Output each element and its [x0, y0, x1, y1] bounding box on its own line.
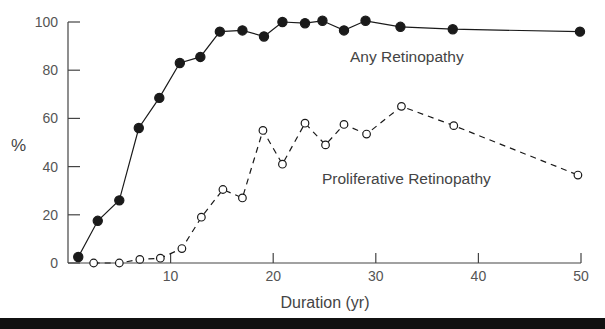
open-circle-marker — [136, 256, 144, 264]
x-tick-label: 50 — [573, 268, 589, 284]
filled-circle-marker — [115, 196, 124, 205]
y-tick-label: 100 — [35, 14, 59, 30]
series-any-retinopathy — [74, 16, 585, 261]
filled-circle-marker — [575, 27, 584, 36]
x-tick-label: 10 — [163, 268, 179, 284]
y-tick-label: 60 — [42, 110, 58, 126]
filled-circle-marker — [93, 216, 102, 225]
y-tick-label: 40 — [42, 159, 58, 175]
open-circle-marker — [90, 259, 98, 267]
open-circle-marker — [198, 213, 206, 221]
y-axis-label: % — [11, 136, 26, 155]
filled-circle-marker — [278, 17, 287, 26]
open-circle-marker — [398, 103, 406, 111]
filled-circle-marker — [134, 123, 143, 132]
filled-circle-marker — [74, 252, 83, 261]
filled-circle-marker — [448, 25, 457, 34]
open-circle-marker — [239, 194, 247, 202]
open-circle-marker — [363, 130, 371, 138]
x-tick-label: 30 — [368, 268, 384, 284]
series-label: Proliferative Retinopathy — [322, 170, 491, 187]
open-circle-marker — [450, 122, 458, 130]
filled-circle-marker — [238, 26, 247, 35]
x-tick-label: 20 — [265, 268, 281, 284]
filled-circle-marker — [259, 32, 268, 41]
filled-circle-marker — [339, 26, 348, 35]
open-circle-marker — [157, 254, 165, 262]
filled-circle-marker — [155, 93, 164, 102]
series-line — [78, 21, 580, 257]
filled-circle-marker — [361, 16, 370, 25]
x-axis-label: Duration (yr) — [281, 294, 370, 311]
y-tick-label: 20 — [42, 207, 58, 223]
series-label: Any Retinopathy — [350, 48, 464, 65]
open-circle-marker — [178, 245, 186, 253]
chart: 0204060801001020304050 Any RetinopathyPr… — [0, 0, 605, 329]
x-tick-label: 40 — [471, 268, 487, 284]
axes: 0204060801001020304050 — [35, 14, 589, 284]
open-circle-marker — [219, 186, 227, 194]
open-circle-marker — [340, 121, 348, 129]
open-circle-marker — [116, 259, 124, 267]
labels-layer: Any RetinopathyProliferative Retinopathy — [322, 48, 491, 187]
y-tick-label: 0 — [50, 255, 58, 271]
open-circle-marker — [574, 171, 582, 179]
bottom-border-bar — [0, 318, 605, 329]
filled-circle-marker — [300, 19, 309, 28]
filled-circle-marker — [215, 27, 224, 36]
filled-circle-marker — [175, 58, 184, 67]
filled-circle-marker — [196, 52, 205, 61]
filled-circle-marker — [318, 16, 327, 25]
open-circle-marker — [301, 119, 309, 127]
filled-circle-marker — [396, 22, 405, 31]
open-circle-marker — [259, 127, 267, 135]
open-circle-marker — [322, 141, 330, 149]
series-layer — [74, 16, 585, 267]
y-tick-label: 80 — [42, 62, 58, 78]
open-circle-marker — [279, 160, 287, 168]
